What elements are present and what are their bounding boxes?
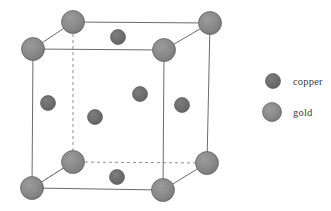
edge-front-left (32, 49, 33, 188)
corner-front-top-left-atom (22, 38, 45, 61)
face-center-bottom-atom (110, 170, 125, 185)
legend-label-copper: copper (293, 77, 323, 88)
face-center-front-atom (88, 110, 103, 125)
corner-back-bottom-right-atom (196, 152, 219, 175)
corner-front-bottom-left-atom (21, 177, 44, 200)
edge-back-top (73, 22, 210, 23)
corner-front-bottom-right-atom (152, 179, 175, 202)
face-center-back-atom (133, 87, 148, 102)
corner-front-top-right-atom (153, 39, 176, 62)
face-center-right-atom (175, 98, 190, 113)
edge-front-right (163, 50, 164, 190)
edge-back-right (207, 23, 210, 163)
legend-label-gold: gold (293, 108, 312, 119)
legend-marker-gold (263, 103, 282, 122)
corner-back-bottom-left-atom (62, 151, 85, 174)
legend-marker-copper (266, 74, 281, 89)
edge-front-top (33, 49, 164, 50)
crystal-structure-figure: copper gold (0, 0, 331, 211)
edge-back-bottom (73, 162, 207, 163)
edge-front-bottom (32, 188, 163, 190)
face-center-left-atom (41, 96, 56, 111)
unit-cell-diagram (0, 0, 331, 211)
corner-back-top-left-atom (62, 11, 85, 34)
legend-marker-group (263, 74, 282, 122)
face-center-top-atom (111, 30, 126, 45)
corner-back-top-right-atom (199, 12, 222, 35)
